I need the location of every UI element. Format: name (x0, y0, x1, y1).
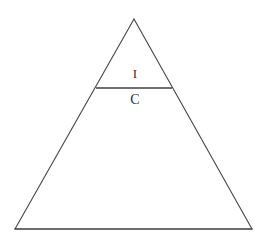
cut-off-header-text: cut-off-text-row (0, 0, 266, 7)
region-label-upper: I (1, 66, 266, 82)
triangle-diagram-canvas (0, 0, 266, 244)
region-label-lower-text: C (130, 92, 139, 108)
region-label-upper-text: I (133, 66, 137, 82)
region-label-lower: C (1, 92, 266, 108)
diagram-background (0, 0, 266, 244)
